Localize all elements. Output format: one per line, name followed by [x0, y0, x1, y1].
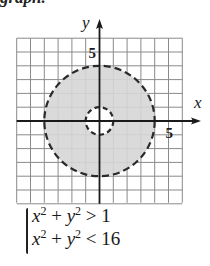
y-axis-label: y	[80, 13, 90, 32]
var-y: y	[67, 205, 75, 226]
var-y: y	[67, 228, 75, 249]
inequality-line-2: x2 + y2 < 16	[32, 227, 120, 250]
exponent: 2	[40, 227, 46, 241]
plus-sign: +	[51, 205, 62, 226]
rhs-value: 16	[101, 228, 120, 249]
inequality-line-1: x2 + y2 > 1	[32, 204, 120, 227]
operator: >	[86, 205, 97, 226]
inequality-graph: xy55	[0, 0, 210, 210]
plus-sign: +	[51, 228, 62, 249]
exponent: 2	[75, 227, 81, 241]
inequality-system: x2 + y2 > 1 x2 + y2 < 16	[26, 204, 120, 250]
x-tick-label: 5	[166, 125, 174, 141]
rhs-value: 1	[101, 205, 111, 226]
operator: <	[86, 228, 97, 249]
exponent: 2	[40, 204, 46, 218]
exponent: 2	[75, 204, 81, 218]
y-tick-label: 5	[89, 45, 97, 61]
system-brace	[26, 208, 31, 254]
x-axis-label: x	[193, 93, 202, 112]
